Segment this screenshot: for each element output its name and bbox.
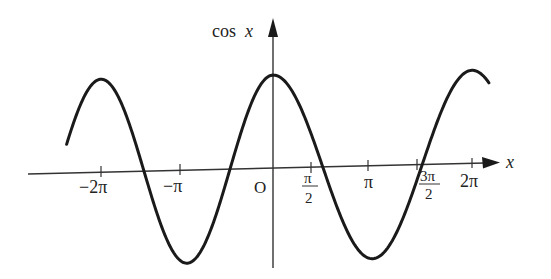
tick-label-2pi: 2π	[460, 171, 478, 191]
y-axis-label-cos: cos	[212, 21, 236, 41]
tick-label-3pi-half: 3π 2	[419, 168, 440, 202]
tick-label-neg-2pi: −2π	[79, 177, 107, 197]
tick-label-pi-half: π 2	[302, 170, 318, 206]
tick-label-pi-half-den: 2	[305, 190, 313, 206]
tick-label-neg-pi: −π	[163, 176, 182, 196]
cosine-plot: x cos x O −2π −π π 2 π 3π 2 2π	[0, 0, 551, 279]
tick-label-pi: π	[364, 172, 373, 192]
tick-label-3pi-half-den: 2	[425, 186, 433, 202]
x-axis-label: x	[505, 152, 514, 172]
tick-label-pi-half-num: π	[304, 170, 312, 186]
cosine-curve	[67, 70, 489, 263]
y-axis-label-x: x	[244, 21, 253, 41]
origin-label: O	[254, 178, 266, 197]
y-axis-arrow-icon	[268, 18, 278, 37]
x-axis-arrow-icon	[482, 157, 500, 169]
tick-label-3pi-half-num: 3π	[420, 168, 436, 184]
